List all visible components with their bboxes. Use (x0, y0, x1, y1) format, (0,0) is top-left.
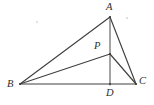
label-D: D (106, 88, 114, 99)
segment-AC (110, 17, 136, 84)
figure-canvas (0, 0, 154, 105)
vertex-C (135, 83, 137, 85)
geometry-figure: A B C D P (0, 0, 154, 105)
vertex-A (109, 16, 111, 18)
vertex-B (19, 83, 21, 85)
label-P: P (94, 41, 100, 52)
segment-BP (20, 54, 110, 84)
vertex-P (109, 53, 111, 55)
vertex-D (109, 83, 111, 85)
label-B: B (7, 79, 13, 90)
scan-speck (126, 17, 128, 19)
segment-PC (110, 54, 136, 84)
label-A: A (106, 2, 112, 13)
scan-speck (36, 21, 38, 23)
label-C: C (139, 76, 146, 87)
